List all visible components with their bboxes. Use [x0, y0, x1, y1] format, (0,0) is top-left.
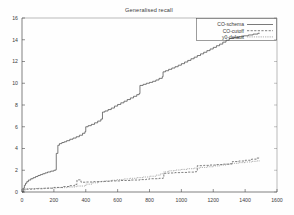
- x-tick-label: 800: [145, 197, 154, 203]
- x-tick-label: 0: [21, 197, 24, 203]
- y-tick-label: 8: [15, 102, 18, 108]
- y-tick-label: 14: [12, 37, 18, 43]
- x-tick-label: 400: [81, 197, 90, 203]
- series-line-y0-default: [22, 160, 259, 188]
- series-line-co-schema: [22, 33, 259, 192]
- plot-border: [22, 18, 277, 192]
- plot-frame: [22, 18, 277, 192]
- y-tick-label: 2: [15, 167, 18, 173]
- y-tick-label: 10: [12, 80, 18, 86]
- x-tick-label: 600: [113, 197, 122, 203]
- data-series-group: [22, 33, 259, 192]
- page-title: Generalised recall: [125, 7, 173, 13]
- x-tick-label: 200: [50, 197, 59, 203]
- y-tick-label: 16: [12, 15, 18, 21]
- legend-label-co-cutoff: CO-cutoff: [223, 28, 245, 34]
- chart-canvas: Generalised recall 0246810121416 0200400…: [0, 0, 294, 215]
- series-line-co-cutoff: [22, 157, 259, 192]
- legend-label-co-schema: CO-schema: [217, 21, 244, 27]
- y-tick-label: 12: [12, 58, 18, 64]
- x-tick-label: 1600: [271, 197, 283, 203]
- y-tick-label: 0: [15, 189, 18, 195]
- chart-legend: CO-schemaCO-cutoffy0-default: [197, 19, 277, 41]
- generalised-recall-chart: Generalised recall 0246810121416 0200400…: [0, 0, 294, 215]
- y-axis-ticks: 0246810121416: [12, 15, 277, 195]
- axis-lines: [22, 18, 277, 192]
- x-axis-ticks: 02004006008001000120014001600: [21, 189, 283, 203]
- y-tick-label: 6: [15, 124, 18, 130]
- x-tick-label: 1000: [176, 197, 188, 203]
- y-tick-label: 4: [15, 145, 18, 151]
- x-tick-label: 1200: [207, 197, 219, 203]
- chart-title-group: Generalised recall: [125, 7, 173, 13]
- x-tick-label: 1400: [239, 197, 251, 203]
- legend-label-y0-default: y0-default: [222, 34, 245, 40]
